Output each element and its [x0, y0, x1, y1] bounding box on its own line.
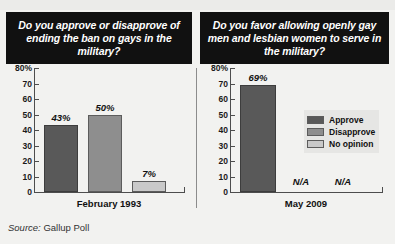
y-axis-tick-label: 60: [200, 94, 228, 104]
y-axis-tick-label: 40: [200, 125, 228, 135]
legend-swatch: [307, 116, 324, 124]
y-axis-tick-label: 30: [200, 141, 228, 151]
legend-swatch: [307, 128, 324, 136]
y-axis-tick-label: 70: [200, 79, 228, 89]
y-axis-tick-label: 80%: [200, 63, 228, 73]
legend-item: Disapprove: [307, 126, 375, 137]
bar-approve: [44, 125, 78, 192]
y-axis-tick: [230, 177, 235, 178]
y-axis-labels-left: 80%706050403020100: [4, 68, 32, 192]
y-axis-tick-label: 50: [4, 110, 32, 120]
chart-legend: ApproveDisapproveNo opinion: [304, 110, 379, 153]
legend-item: No opinion: [307, 138, 375, 149]
top-strip: [0, 0, 395, 10]
bar-value-label: 69%: [248, 72, 267, 83]
y-axis-tick: [230, 130, 235, 131]
y-axis-top-cap-right: [230, 68, 235, 69]
y-axis-tick: [34, 99, 39, 100]
legend-label: Approve: [329, 115, 363, 125]
y-axis-tick: [230, 99, 235, 100]
y-axis-tick-label: 20: [4, 156, 32, 166]
bar-value-label: 50%: [95, 102, 114, 113]
y-axis-tick: [34, 84, 39, 85]
y-axis-tick-label: 0: [200, 187, 228, 197]
y-axis-tick-label: 70: [4, 79, 32, 89]
x-axis-title-left: February 1993: [77, 198, 141, 209]
y-axis-tick: [34, 161, 39, 162]
legend-label: No opinion: [329, 139, 373, 149]
x-axis-title-right: May 2009: [285, 198, 327, 209]
y-axis-labels-right: 80%706050403020100: [200, 68, 228, 192]
bar-value-label: 43%: [51, 112, 70, 123]
y-axis-tick: [230, 115, 235, 116]
x-axis-end-tick: [184, 187, 185, 193]
y-axis-tick-label: 0: [4, 187, 32, 197]
bar-no-opinion: [132, 181, 166, 192]
bar-approve: [240, 85, 276, 192]
y-axis-tick-label: 40: [4, 125, 32, 135]
y-axis-tick-label: 50: [200, 110, 228, 120]
legend-label: Disapprove: [329, 127, 375, 137]
chart-panels: Do you approve or disapprove of ending t…: [0, 10, 395, 244]
panel-left-header: Do you approve or disapprove of ending t…: [6, 12, 192, 64]
legend-item: Approve: [307, 114, 375, 125]
bar-value-na: N/A: [335, 176, 351, 187]
y-axis-tick-label: 30: [4, 141, 32, 151]
panel-divider: [196, 68, 197, 208]
bar-value-label: 7%: [142, 168, 156, 179]
y-axis-tick: [34, 177, 39, 178]
y-axis-tick-label: 10: [200, 172, 228, 182]
bar-disapprove: [88, 115, 122, 193]
legend-swatch: [307, 140, 324, 148]
y-axis-tick-label: 60: [4, 94, 32, 104]
source-value: Gallup Poll: [43, 222, 89, 233]
chart-right: 80%706050403020100 69%N/AN/A May 2009 Ap…: [200, 68, 392, 218]
panel-right-header: Do you favor allowing openly gay men and…: [200, 12, 389, 64]
bar-value-na: N/A: [293, 176, 309, 187]
y-axis-tick: [230, 161, 235, 162]
poll-chart-figure: Do you approve or disapprove of ending t…: [0, 0, 395, 244]
y-axis-tick: [34, 192, 39, 193]
y-axis-tick: [34, 130, 39, 131]
y-axis-tick-label: 80%: [4, 63, 32, 73]
x-axis-line-right: [230, 192, 382, 193]
chart-left: 80%706050403020100 43%50%7% February 199…: [4, 68, 194, 218]
source-note: Source: Gallup Poll: [8, 222, 89, 233]
y-axis-tick-label: 20: [200, 156, 228, 166]
y-axis-tick: [34, 146, 39, 147]
x-axis-line-left: [34, 192, 184, 193]
y-axis-tick-label: 10: [4, 172, 32, 182]
y-axis-tick: [34, 115, 39, 116]
y-axis-tick: [230, 146, 235, 147]
y-axis-tick: [230, 192, 235, 193]
x-axis-end-tick: [382, 187, 383, 193]
y-axis-top-cap-left: [34, 68, 39, 69]
y-axis-tick: [230, 84, 235, 85]
source-label: Source:: [8, 222, 41, 233]
